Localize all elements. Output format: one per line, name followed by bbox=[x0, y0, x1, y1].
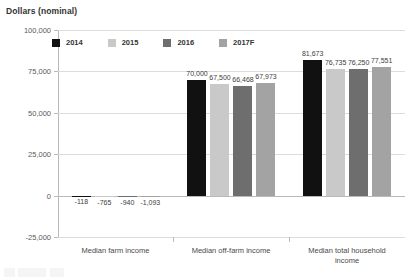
bar-2016-0[interactable]: -940 bbox=[118, 30, 137, 237]
legend-swatch-2017f bbox=[219, 39, 227, 47]
legend-item-2014[interactable]: 2014 bbox=[52, 38, 83, 47]
chart-axis-title: Dollars (nominal) bbox=[6, 6, 77, 16]
bar-2015-0[interactable]: -765 bbox=[95, 30, 114, 237]
plot-area: 100,00075,00050,00025,0000-25,000-118-76… bbox=[58, 30, 405, 237]
bar-fill bbox=[256, 83, 275, 196]
y-axis-label: 0 bbox=[47, 191, 51, 200]
bar-fill bbox=[187, 80, 206, 196]
bar-value-label: 70,000 bbox=[186, 70, 207, 77]
bar-group: -118-765-940-1,093 bbox=[58, 30, 174, 237]
bar-2017f-1[interactable]: 67,973 bbox=[256, 30, 275, 237]
bar-value-label: -765 bbox=[97, 199, 111, 206]
legend-swatch-2016 bbox=[163, 39, 171, 47]
y-axis-label: 25,000 bbox=[28, 150, 51, 159]
legend-item-2015[interactable]: 2015 bbox=[108, 38, 139, 47]
y-axis-label: 75,000 bbox=[28, 67, 51, 76]
legend-label-2016: 2016 bbox=[177, 38, 194, 47]
y-axis-label: -25,000 bbox=[26, 233, 51, 242]
footer-watermark bbox=[4, 268, 64, 277]
bar-fill bbox=[233, 86, 252, 196]
bar-value-label: -118 bbox=[75, 198, 89, 205]
legend-label-2015: 2015 bbox=[122, 38, 139, 47]
bar-value-label: 76,735 bbox=[325, 59, 346, 66]
gridline bbox=[58, 237, 405, 238]
bar-fill bbox=[141, 196, 160, 198]
bar-value-label: 81,673 bbox=[302, 50, 323, 57]
legend-item-2016[interactable]: 2016 bbox=[163, 38, 194, 47]
bar-value-label: 77,551 bbox=[371, 57, 392, 64]
bar-fill bbox=[326, 69, 345, 196]
bar-2015-1[interactable]: 67,500 bbox=[210, 30, 229, 237]
x-category-line: income bbox=[289, 256, 405, 266]
bar-group: 81,67376,73576,25077,551 bbox=[289, 30, 405, 237]
legend-swatch-2015 bbox=[108, 39, 116, 47]
bar-2014-2[interactable]: 81,673 bbox=[303, 30, 322, 237]
bar-fill bbox=[303, 60, 322, 195]
chart-legend: 2014 2015 2016 2017F bbox=[52, 38, 279, 47]
y-axis-label: 50,000 bbox=[28, 108, 51, 117]
y-axis-tick bbox=[54, 237, 58, 238]
x-category-line: Median off-farm income bbox=[173, 246, 289, 256]
bar-group: 70,00067,50066,46867,973 bbox=[174, 30, 290, 237]
bar-fill bbox=[372, 67, 391, 195]
x-category-label-offfarm: Median off-farm income bbox=[173, 246, 289, 256]
x-category-line: Median total household bbox=[289, 246, 405, 256]
bar-fill bbox=[118, 196, 137, 198]
bar-2014-1[interactable]: 70,000 bbox=[187, 30, 206, 237]
bar-fill bbox=[349, 69, 368, 195]
x-category-label-farm: Median farm income bbox=[58, 246, 173, 256]
bar-chart: Dollars (nominal) 100,00075,00050,00025,… bbox=[0, 0, 412, 279]
legend-label-2017f: 2017F bbox=[233, 38, 254, 47]
bar-fill bbox=[95, 196, 114, 198]
bar-2014-0[interactable]: -118 bbox=[72, 30, 91, 237]
x-axis-separator bbox=[289, 237, 290, 242]
bar-2016-1[interactable]: 66,468 bbox=[233, 30, 252, 237]
bar-fill bbox=[210, 84, 229, 196]
bar-2017f-2[interactable]: 77,551 bbox=[372, 30, 391, 237]
legend-label-2014: 2014 bbox=[66, 38, 83, 47]
bar-2017f-0[interactable]: -1,093 bbox=[141, 30, 160, 237]
bar-value-label: 67,500 bbox=[209, 74, 230, 81]
x-category-line: Median farm income bbox=[58, 246, 173, 256]
y-axis-label: 100,000 bbox=[24, 26, 51, 35]
x-axis-separator bbox=[173, 237, 174, 242]
bar-value-label: 76,250 bbox=[348, 59, 369, 66]
bar-value-label: -1,093 bbox=[140, 199, 160, 206]
legend-item-2017f[interactable]: 2017F bbox=[219, 38, 254, 47]
bar-value-label: -940 bbox=[120, 199, 134, 206]
bar-2015-2[interactable]: 76,735 bbox=[326, 30, 345, 237]
x-category-label-total: Median total household income bbox=[289, 246, 405, 266]
bar-value-label: 67,973 bbox=[255, 73, 276, 80]
bar-value-label: 66,468 bbox=[232, 76, 253, 83]
bar-2016-2[interactable]: 76,250 bbox=[349, 30, 368, 237]
legend-swatch-2014 bbox=[52, 39, 60, 47]
